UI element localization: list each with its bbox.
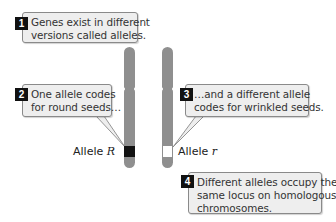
callout-2: One allele codes for round seeds…	[22, 84, 112, 117]
allele-band-R	[124, 146, 135, 157]
allele-label-R: Allele R	[73, 145, 115, 158]
callout-4-number-badge: 4	[181, 175, 194, 188]
callout-1-line-2: versions called alleles.	[31, 29, 131, 42]
callout-1: Genes exist in different versions called…	[22, 12, 138, 43]
callout-4-line-2: same locus on homologous	[197, 189, 315, 202]
callout-2-line-2: for round seeds…	[31, 101, 105, 114]
allele-label-r: Allele r	[178, 145, 217, 158]
callout-4-line-3: chromosomes.	[197, 202, 315, 215]
callout-3-tail	[173, 116, 204, 147]
allele-label-r-prefix: Allele	[178, 145, 212, 158]
callout-3: …and a different allele codes for wrinkl…	[185, 84, 309, 117]
callout-1-number-badge: 1	[15, 17, 28, 30]
chromosome-right-upper-arm	[162, 47, 173, 89]
callout-2-tail	[96, 116, 125, 147]
allele-label-R-symbol: R	[107, 145, 115, 158]
chromosome-left-upper-arm	[124, 47, 135, 89]
callout-4: Different alleles occupy the same locus …	[188, 172, 322, 214]
callout-2-line-1: One allele codes	[31, 88, 105, 101]
callout-3-line-2: codes for wrinkled seeds.	[194, 101, 302, 114]
callout-3-number-badge: 3	[180, 88, 193, 101]
allele-label-r-symbol: r	[212, 145, 217, 158]
allele-label-R-prefix: Allele	[73, 145, 107, 158]
callout-4-line-1: Different alleles occupy the	[197, 176, 315, 189]
allele-band-r	[163, 146, 172, 157]
callout-2-number-badge: 2	[15, 88, 28, 101]
callout-1-line-1: Genes exist in different	[31, 16, 131, 29]
callout-3-line-1: …and a different allele	[194, 88, 302, 101]
